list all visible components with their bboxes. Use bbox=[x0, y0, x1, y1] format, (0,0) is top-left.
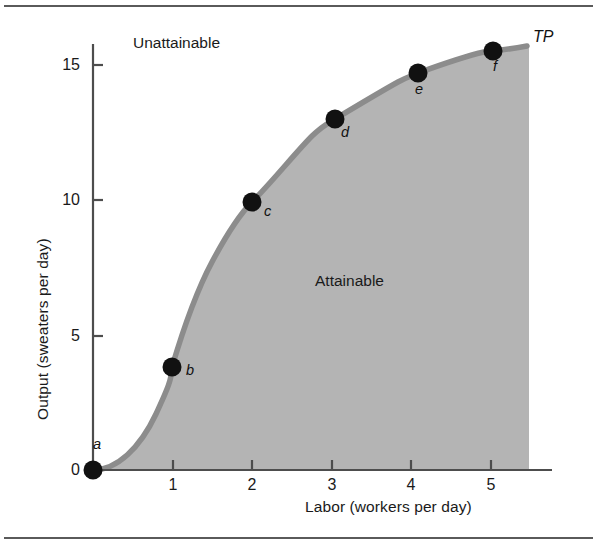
y-tick-label-5: 5 bbox=[54, 327, 80, 345]
x-axis-title: Labor (workers per day) bbox=[305, 498, 472, 516]
x-tick-label-2: 2 bbox=[240, 476, 264, 494]
data-point-label-d: d bbox=[341, 124, 349, 140]
figure-container: Output (sweaters per day) Labor (workers… bbox=[0, 0, 597, 548]
y-tick-label-0: 0 bbox=[54, 461, 80, 479]
data-point-e[interactable] bbox=[409, 64, 428, 83]
plot-area: Output (sweaters per day) Labor (workers… bbox=[0, 0, 597, 548]
x-tick-label-1: 1 bbox=[161, 476, 185, 494]
tp-curve-label: TP bbox=[533, 28, 553, 46]
data-point-c[interactable] bbox=[243, 193, 262, 212]
x-tick-label-3: 3 bbox=[320, 476, 344, 494]
x-tick-label-5: 5 bbox=[479, 476, 503, 494]
y-tick-label-10: 10 bbox=[54, 191, 80, 209]
y-tick-label-15: 15 bbox=[54, 56, 80, 74]
data-point-a[interactable] bbox=[84, 461, 103, 480]
x-tick-label-4: 4 bbox=[399, 476, 423, 494]
data-point-label-f: f bbox=[493, 58, 497, 74]
data-point-label-a: a bbox=[93, 436, 101, 452]
data-point-b[interactable] bbox=[163, 358, 182, 377]
data-point-label-c: c bbox=[264, 203, 271, 219]
data-point-label-e: e bbox=[415, 81, 423, 97]
data-point-label-b: b bbox=[186, 362, 194, 378]
attainable-region-label: Attainable bbox=[315, 272, 384, 290]
y-axis-title: Output (sweaters per day) bbox=[34, 238, 52, 420]
unattainable-region-label: Unattainable bbox=[133, 34, 220, 52]
chart-canvas bbox=[0, 0, 597, 548]
